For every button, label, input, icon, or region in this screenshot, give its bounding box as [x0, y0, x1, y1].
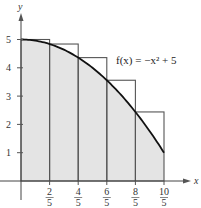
y-tick-label: 1 [6, 147, 11, 158]
x-tick-denominator: 5 [76, 197, 81, 208]
y-axis-arrow-icon [19, 13, 24, 21]
x-tick-denominator: 5 [162, 197, 167, 208]
x-tick-numerator: 10 [159, 186, 169, 197]
x-tick-numerator: 2 [47, 186, 52, 197]
riemann-sum-chart: x y 12345 25456585105 f(x) = −x² + 5 [0, 0, 201, 208]
function-label: f(x) = −x² + 5 [116, 54, 177, 67]
y-tick-label: 4 [6, 62, 11, 73]
x-tick-denominator: 5 [133, 197, 138, 208]
x-tick-numerator: 8 [133, 186, 138, 197]
x-tick-denominator: 5 [104, 197, 109, 208]
x-ticks: 25456585105 [46, 181, 169, 208]
x-tick-numerator: 4 [76, 186, 81, 197]
x-axis-label: x [193, 175, 199, 186]
y-tick-label: 3 [6, 91, 11, 102]
x-tick-denominator: 5 [47, 197, 52, 208]
y-tick-label: 2 [6, 119, 11, 130]
x-axis-arrow-icon [183, 179, 191, 184]
y-tick-label: 5 [6, 34, 11, 45]
x-tick-numerator: 6 [104, 186, 109, 197]
y-axis-label: y [17, 1, 23, 12]
